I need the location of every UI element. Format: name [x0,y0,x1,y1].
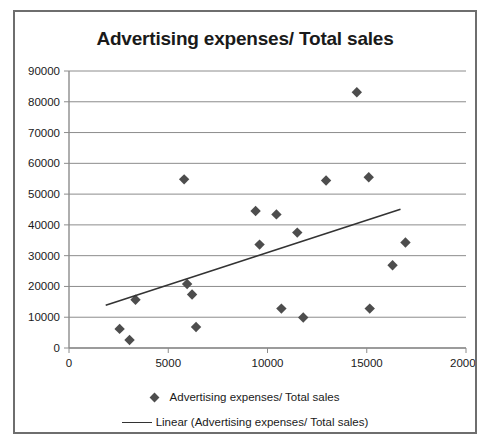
data-point [191,322,201,332]
x-axis-tick-label: 0 [66,357,72,369]
data-point [271,209,281,219]
gridlines [64,71,466,348]
data-point [387,260,397,270]
y-axis-tick-label: 90000 [28,65,60,77]
data-point [124,335,134,345]
data-point [114,324,124,334]
data-point [321,175,331,185]
y-axis-tick-label: 30000 [28,250,60,262]
data-point [250,206,260,216]
data-point [298,312,308,322]
x-axis-tick-label: 10000 [252,357,284,369]
x-axis-tick-label: 5000 [155,357,181,369]
data-point-group [114,87,410,345]
y-axis-tick-label: 50000 [28,188,60,200]
y-axis-tick-label: 10000 [28,311,60,323]
chart-container: Advertising expenses/ Total sales 010000… [13,10,477,434]
y-axis-tick-label: 0 [54,342,60,354]
legend-series-label: Advertising expenses/ Total sales [170,391,340,403]
data-point [400,237,410,247]
legend-entry-series: Advertising expenses/ Total sales [15,391,475,403]
y-axis-tick-label: 60000 [28,157,60,169]
y-axis-tick-label: 20000 [28,280,60,292]
data-point [254,239,264,249]
data-point [187,289,197,299]
y-axis-tick-labels: 0100002000030000400005000060000700008000… [28,65,60,354]
line-marker-icon [122,422,152,423]
data-point [352,87,362,97]
trendline [106,209,401,305]
trendline-path [106,209,401,305]
data-point [276,303,286,313]
data-point [364,172,374,182]
data-point [179,174,189,184]
y-axis-tick-label: 70000 [28,127,60,139]
axis-lines [69,71,466,348]
legend-entry-trendline: Linear (Advertising expenses/ Total sale… [15,416,475,428]
x-axis-tick-label: 15000 [351,357,383,369]
legend-trend-label: Linear (Advertising expenses/ Total sale… [156,416,369,428]
y-axis-tick-label: 40000 [28,219,60,231]
x-axis-tick-label: 20000 [450,357,475,369]
scatter-plot: 0100002000030000400005000060000700008000… [15,12,475,432]
x-axis-tick-labels: 05000100001500020000 [66,348,475,369]
data-point [292,227,302,237]
diamond-marker-icon [149,392,159,402]
data-point [365,303,375,313]
y-axis-tick-label: 80000 [28,96,60,108]
